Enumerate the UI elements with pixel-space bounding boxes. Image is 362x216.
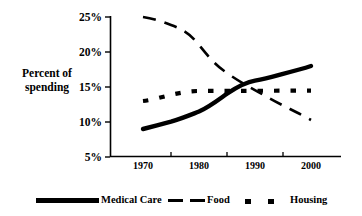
x-axis-ticks xyxy=(171,152,283,156)
legend-swatch-housing-b xyxy=(268,199,274,204)
legend-label-housing: Housing xyxy=(290,194,327,205)
series-line-medical-care xyxy=(143,66,311,129)
series-line-food xyxy=(143,17,311,120)
spending-line-chart: Percent of spending 25% 20% 15% 10% 5% 1… xyxy=(0,0,362,216)
legend-swatch-housing-a xyxy=(245,199,251,204)
plot-area xyxy=(0,0,362,216)
y-axis-ticks xyxy=(105,17,110,157)
legend-swatch-food-a xyxy=(168,199,183,202)
legend-swatch-medical-care xyxy=(36,198,99,203)
axis-lines xyxy=(110,16,341,157)
legend-swatch-food-b xyxy=(190,199,205,202)
legend-label-medical-care: Medical Care xyxy=(101,194,162,205)
legend-label-food: Food xyxy=(207,194,230,205)
